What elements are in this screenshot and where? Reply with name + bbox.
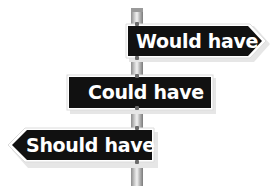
sign-could-have: Could have	[66, 74, 216, 114]
sign-would-have: Would have	[124, 22, 270, 62]
bolt-icon	[135, 56, 139, 60]
sign-label: Could have	[88, 83, 204, 102]
bolt-icon	[135, 126, 139, 130]
bolt-icon	[135, 160, 139, 164]
pole-cap	[131, 8, 143, 12]
bolt-icon	[135, 74, 139, 78]
bolt-icon	[135, 22, 139, 26]
bolt-icon	[135, 106, 139, 110]
sign-label: Should have	[26, 136, 155, 155]
sign-label: Would have	[136, 32, 258, 51]
